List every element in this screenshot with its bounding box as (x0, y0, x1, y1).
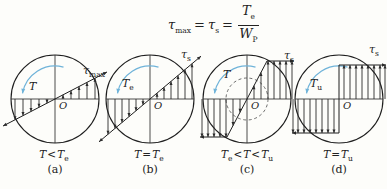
stress-formula: τmax=τs=TeWP (40, 4, 387, 46)
origin-label: O (343, 100, 351, 111)
subfigure-letter: (c) (199, 163, 295, 176)
torque-label: T (29, 81, 36, 96)
diagram-c: T τs O Te<T<Tu (c) (199, 42, 295, 184)
apex-stress-label: τs (369, 44, 379, 59)
diagram-b: Te τs O T=Te (b) (102, 42, 198, 184)
subfigure-letter: (d) (291, 163, 387, 176)
diagram-a: T τmax O T<Te (a) (7, 42, 103, 184)
condition-label: T=Te (102, 148, 198, 163)
origin-label: O (154, 100, 162, 111)
torque-label: Tu (310, 78, 322, 93)
tau-max-symbol: τmax (168, 17, 191, 32)
condition-label: Te<T<Tu (199, 148, 295, 163)
equals-sign: = (222, 17, 233, 32)
subfigure-letter: (b) (102, 163, 198, 176)
fraction: TeWP (238, 4, 259, 46)
torsion-figure: τmax=τs=TeWP T τmax O T<Te (a) Te τs O T… (0, 0, 387, 189)
origin-label: O (59, 100, 67, 111)
equals-sign: = (194, 17, 205, 32)
torque-label: T (223, 69, 230, 84)
tau-s-symbol: τs (208, 17, 219, 32)
subfigure-letter: (a) (7, 163, 103, 176)
apex-stress-label: τs (181, 49, 191, 64)
torque-label: Te (122, 78, 134, 93)
condition-label: T<Te (7, 148, 103, 163)
fraction-numerator: Te (238, 4, 259, 26)
diagram-d: Tu τs O T=Tu (d) (291, 42, 387, 184)
origin-label: O (251, 100, 259, 111)
condition-label: T=Tu (291, 148, 387, 163)
